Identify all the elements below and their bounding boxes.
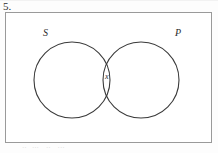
set-label-p: P [174,27,181,38]
set-circle-s [34,42,110,118]
venn-diagram: S P x [5,12,213,144]
problem-number: 5. [3,0,11,12]
worksheet-page: 5. S P x ·· ··· ·· ··· [0,0,218,153]
footer-scan-artifact: ·· ··· ·· ··· [22,145,82,152]
scan-edge-top [0,0,218,1]
set-label-s: S [43,27,48,38]
set-circle-p [103,42,179,118]
intersection-label-x: x [104,72,109,81]
